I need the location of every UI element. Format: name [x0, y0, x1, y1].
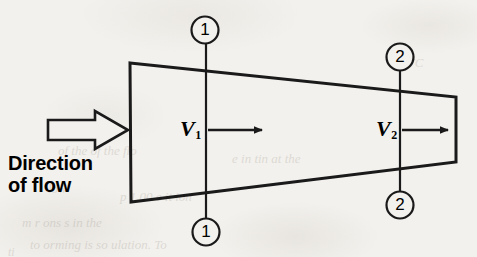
section-1-bottom-marker-label: 1 — [193, 222, 219, 241]
velocity-1-subscript: 1 — [195, 128, 202, 142]
section-1-top-marker-label: 1 — [192, 20, 218, 39]
flow-diagram-figure: WC of the of the flo e in tin at the low… — [0, 0, 477, 257]
velocity-1-symbol: V — [180, 116, 195, 141]
block-arrow-right-icon — [48, 111, 128, 149]
duct-schematic-svg — [0, 0, 477, 257]
section-2-top-marker-label: 2 — [387, 47, 413, 66]
velocity-2-symbol: V — [376, 116, 391, 141]
direction-caption-line-2: of flow — [8, 174, 93, 196]
section-2-bottom-marker-label: 2 — [387, 195, 413, 214]
direction-caption-line-1: Direction — [8, 152, 93, 174]
direction-of-flow-caption: Direction of flow — [8, 152, 93, 197]
duct-outline — [130, 63, 456, 202]
velocity-1-label: V1 — [180, 117, 201, 142]
velocity-2-label: V2 — [376, 117, 397, 142]
velocity-2-subscript: 2 — [391, 128, 398, 142]
